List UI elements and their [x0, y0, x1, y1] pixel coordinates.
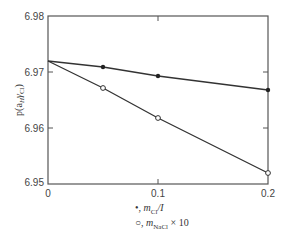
- x-tick-label: 0.2: [261, 188, 275, 199]
- svg-text:p(aHγCl): p(aHγCl): [13, 84, 26, 116]
- y-tick-label: 6.98: [25, 11, 45, 22]
- data-point-filled: [266, 88, 270, 92]
- plot-frame: [48, 16, 268, 184]
- x-tick-label: 0.1: [151, 188, 165, 199]
- y-axis-label: p(aHγCl): [13, 84, 26, 116]
- y-tick-label: 6.95: [25, 177, 45, 188]
- data-point-filled: [156, 74, 160, 78]
- legend-item-open: ○, mNaCl × 10: [135, 217, 189, 231]
- chart-svg: 6.98 6.97 6.96 6.95 0 0.1 0.2 p(aHγCl): [0, 0, 286, 235]
- data-point-open: [156, 116, 161, 121]
- y-tick-label: 6.97: [25, 67, 45, 78]
- data-point-filled: [101, 65, 105, 69]
- data-point-open: [266, 171, 271, 176]
- y-tick-label: 6.96: [25, 123, 45, 134]
- data-point-open: [101, 86, 106, 91]
- x-tick-label: 0: [45, 188, 51, 199]
- legend-item-filled: •, mCl/I: [135, 202, 163, 216]
